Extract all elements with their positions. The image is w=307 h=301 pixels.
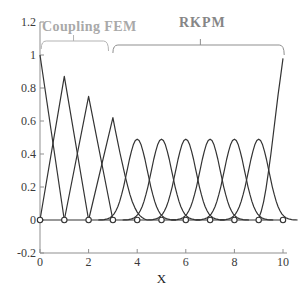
y-tick-label: 0 [30,213,36,227]
y-tick-label: 1 [30,48,36,62]
x-axis-title: X [157,271,167,286]
y-tick-label: -0.2 [17,246,36,260]
x-tick-label: 0 [37,255,43,269]
node-marker [159,217,164,222]
curve-fem-node-2 [64,96,113,220]
y-tick-label: 0.4 [21,147,36,161]
axis-labels: -0.200.20.40.60.811.20246810X [17,15,289,286]
curve-rkpm-node-6 [147,139,225,220]
x-tick-label: 6 [183,255,189,269]
curve-transition-node-3 [89,118,147,220]
node-marker [256,217,261,222]
curve-rkpm-node-9 [220,139,298,220]
curve-rkpm-node-10 [256,58,283,220]
x-tick-label: 2 [86,255,92,269]
node-marker [232,217,237,222]
brace-annotations [41,35,284,55]
node-marker [183,217,188,222]
node-marker [135,217,140,222]
node-marker [37,217,42,222]
node-marker [207,217,212,222]
y-tick-label: 0.8 [21,81,36,95]
coupling-fem-brace [41,41,108,51]
shape-function-curves [40,55,298,220]
x-tick-label: 4 [134,255,140,269]
curve-rkpm-node-7 [171,139,249,220]
node-marker [62,217,67,222]
node-marker [110,217,115,222]
chart-canvas: -0.200.20.40.60.811.20246810X [0,0,307,301]
figure: -0.200.20.40.60.811.20246810X Coupling F… [0,0,307,301]
rkpm-brace [113,45,284,55]
y-tick-label: 0.6 [21,114,36,128]
node-marker [86,217,91,222]
rkpm-label: RKPM [179,15,226,31]
coupling-fem-label: Coupling FEM [42,19,137,35]
node-marker [280,217,285,222]
x-tick-label: 10 [277,255,289,269]
y-tick-label: 0.2 [21,180,36,194]
x-tick-label: 8 [231,255,237,269]
y-tick-label: 1.2 [21,15,36,29]
curve-fem-node-1 [40,76,89,220]
